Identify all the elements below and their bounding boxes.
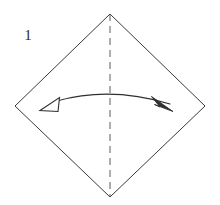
step-number-label: 1 — [24, 27, 32, 43]
origami-diagram: 1 — [0, 0, 220, 205]
origami-figure-svg: 1 — [0, 0, 220, 205]
